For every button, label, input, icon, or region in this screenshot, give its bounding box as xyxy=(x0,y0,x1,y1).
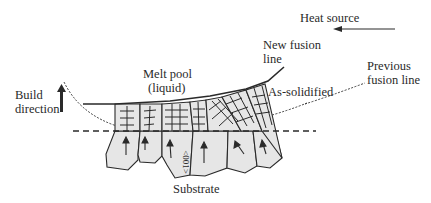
new-fusion-line-label-2: line xyxy=(263,52,282,66)
new-fusion-line-label-1: New fusion xyxy=(263,38,321,52)
solidification-diagram: Heat source New fusion line Previous fus… xyxy=(0,0,431,203)
as-solidified-label: As-solidified xyxy=(268,85,333,99)
build-direction-label-1: Build xyxy=(15,88,43,102)
diagram-graphic xyxy=(0,0,431,203)
build-direction-label-2: direction xyxy=(15,102,59,116)
substrate-label: Substrate xyxy=(173,182,220,196)
substrate-grains xyxy=(106,131,282,178)
crystal-direction-label: <001> xyxy=(179,150,193,174)
previous-fusion-line-label-2: fusion line xyxy=(367,73,420,87)
previous-fusion-line-label-1: Previous xyxy=(367,59,411,73)
melt-pool-label-2: (liquid) xyxy=(148,81,186,95)
melt-pool-label-1: Melt pool xyxy=(143,67,192,81)
heat-source-arrow-icon xyxy=(122,26,395,32)
heat-source-label: Heat source xyxy=(300,11,359,25)
